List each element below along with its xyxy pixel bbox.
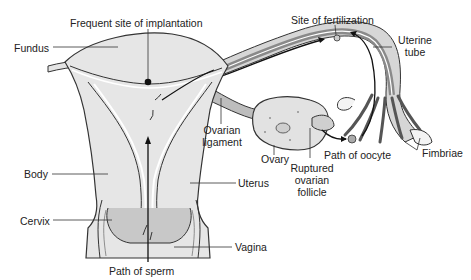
reproductive-tract-diagram: Frequent site of implantation Site of fe… bbox=[0, 0, 471, 280]
label-fundus: Fundus bbox=[14, 42, 49, 54]
label-uterus: Uterus bbox=[238, 177, 269, 189]
label-vagina: Vagina bbox=[235, 241, 267, 253]
label-ruptured-follicle-line1: Ruptured bbox=[290, 162, 334, 174]
label-ovarian-ligament-line2: ligament bbox=[200, 136, 244, 148]
label-uterine-tube-line1: Uterine bbox=[393, 34, 437, 46]
label-fimbriae: Fimbriae bbox=[422, 147, 463, 159]
label-fertilization: Site of fertilization bbox=[291, 14, 374, 26]
oocyte bbox=[348, 135, 356, 143]
label-implantation: Frequent site of implantation bbox=[70, 17, 203, 29]
label-body: Body bbox=[24, 168, 48, 180]
label-ovarian-ligament-line1: Ovarian bbox=[200, 124, 244, 136]
label-cervix: Cervix bbox=[20, 215, 50, 227]
label-ovary: Ovary bbox=[261, 153, 289, 165]
fertilization-site-marker bbox=[334, 35, 340, 41]
label-path-of-oocyte: Path of oocyte bbox=[324, 149, 391, 161]
implantation-site-marker bbox=[145, 79, 152, 86]
label-path-of-sperm: Path of sperm bbox=[109, 265, 174, 277]
ovary bbox=[253, 97, 334, 150]
label-uterine-tube-line2: tube bbox=[393, 46, 437, 58]
label-ruptured-follicle-line2: ovarian bbox=[290, 174, 334, 186]
label-ruptured-follicle-line3: follicle bbox=[290, 186, 334, 198]
